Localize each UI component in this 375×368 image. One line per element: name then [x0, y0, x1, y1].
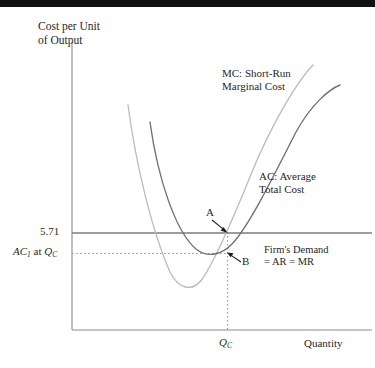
ac-tick-connector: at: [31, 245, 44, 257]
price-tick-label: 5.71: [40, 225, 59, 238]
qc-symbol: Q: [219, 336, 227, 348]
point-b-label: B: [242, 255, 249, 268]
ac-tick-q-subscript: C: [52, 250, 57, 259]
qc-subscript: C: [227, 341, 232, 350]
quantity-tick-label: QC: [219, 336, 232, 350]
average-cost-tick-label: AC1 at QC: [13, 245, 57, 259]
ac-tick-symbol: AC: [13, 245, 27, 257]
ac-tick-q-symbol: Q: [44, 245, 52, 257]
point-a-label: A: [206, 206, 214, 219]
y-axis-label: Cost per Unit of Output: [38, 20, 100, 47]
ac-curve-label: AC: Average Total Cost: [259, 170, 316, 196]
x-axis-label: Quantity: [304, 337, 343, 350]
cost-curves-chart: [0, 0, 375, 368]
figure-screenshot: Cost per Unit of Output MC: Short-Run Ma…: [0, 0, 375, 368]
mc-curve-label: MC: Short-Run Marginal Cost: [222, 67, 291, 93]
demand-line-label: Firm's Demand = AR = MR: [264, 244, 329, 269]
